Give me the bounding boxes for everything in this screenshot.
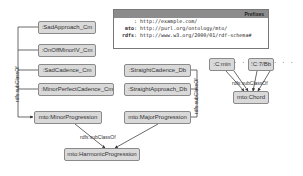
node-straight-cadence[interactable]: :StraightCadence_Db [124,64,191,77]
edge-label-bottom: rdfs:subClassOf [80,134,116,140]
node-harmonic-progression[interactable]: mto:HarmonicProgression [64,148,140,161]
ellipsis-1: · · · [234,59,255,66]
node-sad-approach[interactable]: :SadApproach_Cm [38,21,96,34]
node-sad-cadence[interactable]: :SadCadence_Cm [38,64,96,77]
edge-label-chord: rdfs:subClassOf [232,80,268,86]
edge-label-left: rdfs:subClassOf [14,66,20,102]
node-minor-progression[interactable]: mto:MinorProgression [34,111,102,124]
prefix-row-mto: mto: http://purl.org/ontology/mto/ [114,25,268,32]
prefix-row-rdfs: rdfs: http://www.w3.org/2000/01/rdf-sche… [114,32,268,39]
prefixes-title: Prefixes [114,10,268,18]
node-straight-approach[interactable]: :StraightApproach_Db [124,83,191,96]
node-major-progression[interactable]: mto:MajorProgression [124,111,191,124]
prefix-row-default: : http://example.com/ [114,18,268,25]
prefixes-panel: Prefixes : http://example.com/ mto: http… [113,9,269,49]
ellipsis-2: · · · [274,59,295,66]
node-chord[interactable]: mto:Chord [233,91,269,104]
node-onoff-minor[interactable]: :OnOffMinorIV_Cm [38,44,96,57]
node-minor-perfect-cadence[interactable]: :MinorPerfectCadence_Cm [38,83,114,96]
edge-label-middle: rdfs:subClassOf [193,78,199,114]
node-c-min[interactable]: :C:min [209,58,235,71]
